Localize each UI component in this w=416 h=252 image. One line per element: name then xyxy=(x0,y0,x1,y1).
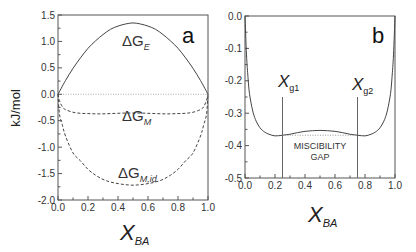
panel-a-x-ticks: 0.00.20.40.60.81.0 xyxy=(51,196,215,213)
panel-b: 0.0-0.1-0.2-0.3-0.4-0.5 0.00.20.40.60.81… xyxy=(225,11,403,230)
figure: 1.51.00.50.0-0.5-1.0-1.5-2.0 0.00.20.40.… xyxy=(0,0,416,252)
panel-b-x-ticks: 0.00.20.40.60.81.0 xyxy=(238,174,402,191)
annotation-xg1: Xg1 xyxy=(277,72,299,93)
label-dgmid-main: ΔG xyxy=(118,164,140,181)
y-tick-label: -1.0 xyxy=(38,142,56,153)
label-dgm-main: ΔG xyxy=(122,107,144,124)
miscibility-label: MISCIBILITY xyxy=(294,141,347,151)
y-tick-label: -0.2 xyxy=(225,75,243,86)
panel-a-letter: a xyxy=(182,23,195,48)
label-dgmid: ΔGM,id xyxy=(118,164,158,184)
panel-b-xlabel-main: X xyxy=(307,202,324,227)
y-tick-label: -0.5 xyxy=(38,115,56,126)
x-tick-label: 0.6 xyxy=(141,202,155,213)
annotation-xg1-main: X xyxy=(277,72,290,91)
panel-a-xlabel: XBA xyxy=(119,220,149,247)
y-tick-label: -0.4 xyxy=(225,140,243,151)
y-tick-label: -1.5 xyxy=(38,168,56,179)
panel-b-xlabel-sub: BA xyxy=(323,217,338,229)
x-tick-label: 1.0 xyxy=(388,180,402,191)
y-tick-label: 0.0 xyxy=(41,89,55,100)
label-dgm-sub: M xyxy=(144,117,152,127)
y-tick-label: -0.3 xyxy=(225,108,243,119)
x-tick-label: 0.2 xyxy=(81,202,95,213)
x-tick-label: 1.0 xyxy=(201,202,215,213)
y-tick-label: 0.5 xyxy=(41,62,55,73)
x-tick-label: 0.0 xyxy=(238,180,252,191)
annotation-xg2-main: X xyxy=(351,75,364,94)
label-dge-sub: E xyxy=(144,42,151,52)
label-dgm: ΔGM xyxy=(122,107,152,127)
panel-a: 1.51.00.50.0-0.5-1.0-1.5-2.0 0.00.20.40.… xyxy=(8,10,215,248)
x-tick-label: 0.4 xyxy=(111,202,125,213)
panel-a-xlabel-sub: BA xyxy=(135,235,150,247)
annotation-xg1-sub: g1 xyxy=(289,83,299,93)
annotation-xg2: Xg2 xyxy=(351,75,373,96)
gap-label: GAP xyxy=(310,152,329,162)
x-tick-label: 0.8 xyxy=(171,202,185,213)
y-tick-label: -0.1 xyxy=(225,43,243,54)
panel-b-letter: b xyxy=(372,23,384,48)
panel-a-ylabel: kJ/mol xyxy=(8,89,23,127)
label-dge: ΔGE xyxy=(122,32,151,52)
label-dge-main: ΔG xyxy=(122,32,144,49)
x-tick-label: 0.0 xyxy=(51,202,65,213)
x-tick-label: 0.6 xyxy=(328,180,342,191)
y-tick-label: 1.5 xyxy=(41,10,55,21)
y-tick-label: 1.0 xyxy=(41,36,55,47)
annotation-xg2-sub: g2 xyxy=(363,86,373,96)
x-tick-label: 0.8 xyxy=(358,180,372,191)
panel-b-gap-markers xyxy=(283,97,358,178)
x-tick-label: 0.4 xyxy=(298,180,312,191)
y-tick-label: 0.0 xyxy=(228,11,242,22)
x-tick-label: 0.2 xyxy=(268,180,282,191)
panel-a-xlabel-main: X xyxy=(119,220,136,245)
label-dgmid-sub: M,id xyxy=(140,174,158,184)
panel-b-xlabel: XBA xyxy=(307,202,337,229)
